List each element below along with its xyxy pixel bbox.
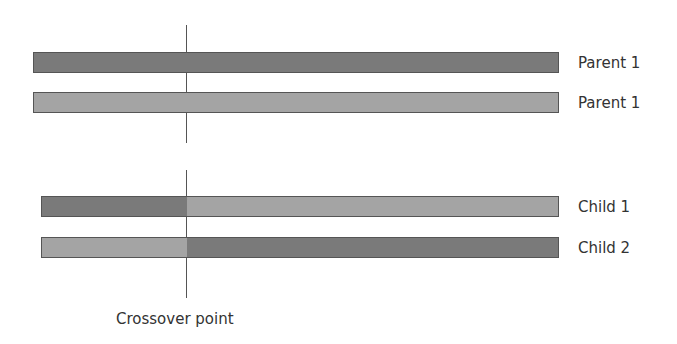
crossover-point-label: Crossover point bbox=[116, 310, 234, 328]
crossover-line-bottom bbox=[186, 170, 187, 298]
child-1-right-segment bbox=[187, 197, 558, 216]
child-2-bar bbox=[41, 237, 559, 258]
parent-1-segment bbox=[34, 53, 558, 72]
child-2-label: Child 2 bbox=[578, 239, 630, 257]
parent-1-bar bbox=[33, 52, 559, 73]
parent-2-label: Parent 1 bbox=[578, 94, 640, 112]
child-1-left-segment bbox=[42, 197, 187, 216]
child-2-left-segment bbox=[42, 238, 187, 257]
crossover-line-top bbox=[186, 25, 187, 143]
child-1-label: Child 1 bbox=[578, 198, 630, 216]
parent-2-segment bbox=[34, 93, 558, 112]
child-1-bar bbox=[41, 196, 559, 217]
parent-2-bar bbox=[33, 92, 559, 113]
parent-1-label: Parent 1 bbox=[578, 54, 640, 72]
child-2-right-segment bbox=[187, 238, 558, 257]
